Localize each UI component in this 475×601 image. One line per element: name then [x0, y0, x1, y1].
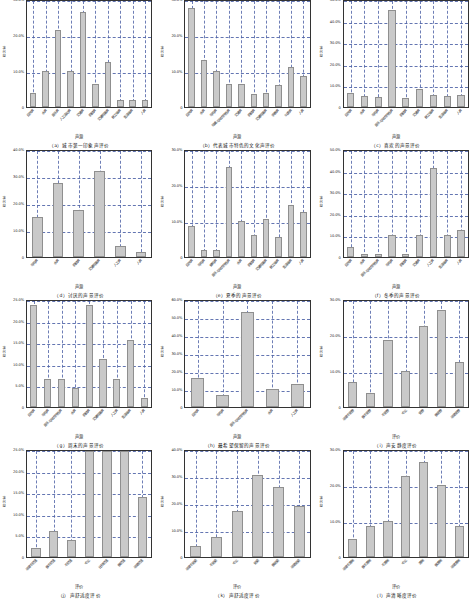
x-tick-label: 交通声: [75, 108, 85, 118]
bar-slot: [27, 451, 45, 557]
y-tick-label: 10.0%: [171, 220, 182, 224]
bar: [211, 537, 222, 557]
x-axis-label: 声源: [75, 283, 84, 289]
bar-series: [27, 451, 151, 557]
y-axis-ticks: 010.0%20.0%30.0%40.0%50.0%: [324, 0, 343, 108]
x-tick-label: 清晰: [417, 558, 425, 566]
bar: [67, 540, 76, 557]
x-tick-label: 不协调: [208, 558, 218, 568]
x-tick-label: 人工声: [108, 408, 118, 418]
bar-slot: [272, 1, 284, 107]
panel-caption: （h）最希望保留的声景评价: [205, 442, 271, 448]
x-tick-label: 水声: [198, 108, 206, 116]
bar-slot: [89, 1, 101, 107]
y-axis-ticks: 010.0%20.0%30.0%40.0%50.0%: [324, 150, 343, 258]
x-axis-label: 声源: [233, 433, 242, 439]
panel-caption: （c）喜欢的声景评价: [371, 142, 421, 148]
bar: [457, 95, 464, 107]
x-axis-label: 声源: [392, 283, 401, 289]
x-tick-label: 自然声: [342, 258, 352, 268]
x-axis-label: 声源: [75, 433, 84, 439]
x-axis-label: 声源: [233, 283, 242, 289]
bar-slot: [210, 151, 222, 257]
bar: [251, 235, 257, 257]
bar: [94, 171, 105, 257]
chart-panel-c: 百分率010.0%20.0%30.0%40.0%50.0%自然声水声鸟鸣声音乐与…: [317, 0, 475, 150]
bar: [388, 235, 395, 257]
bar-slot: [127, 1, 139, 107]
x-axis-ticks: 自然声鸟鸣声蝉鸣声音乐与地方特色声水声机械声交通鸣笛声施工噪声生活噪声人声: [158, 258, 316, 282]
x-tick-label: 人工声: [425, 258, 435, 268]
panel-caption: （g）周末的声景评价: [54, 442, 104, 448]
bar-slot: [63, 451, 81, 557]
bar: [115, 246, 126, 257]
x-tick-label: 交通声: [233, 108, 243, 118]
bar-series: [344, 451, 468, 557]
y-tick-label: 20.0%: [330, 334, 341, 338]
bar: [275, 237, 281, 257]
x-tick-label: 非常不舒适: [24, 558, 38, 572]
bar-slot: [82, 301, 96, 407]
y-tick-label: 40.0%: [13, 148, 24, 152]
y-tick-label: 10.0%: [13, 70, 24, 74]
bar: [361, 96, 368, 107]
bar: [375, 254, 382, 257]
x-tick-label: 非常安静: [449, 408, 461, 420]
bar: [141, 398, 148, 407]
y-tick-label: 30.0%: [171, 352, 182, 356]
bar: [402, 98, 409, 107]
bar-slot: [289, 451, 310, 557]
x-tick-label: 交通鸣笛声: [91, 408, 105, 422]
bar: [226, 84, 232, 107]
panel-caption: （a）城市第一印象声评价: [49, 142, 109, 148]
y-axis-ticks: 010.0%20.0%30.0%: [165, 150, 184, 258]
bar: [58, 379, 65, 407]
x-tick-label: 生活噪声: [120, 408, 132, 420]
x-axis-label: 声源: [75, 133, 84, 139]
x-axis-ticks: 非常不安静很不安静不安静中立安静很安静非常安静: [317, 408, 475, 432]
bar-slot: [131, 151, 152, 257]
bar-slot: [27, 301, 41, 407]
bar-slot: [344, 301, 362, 407]
bar: [416, 89, 423, 107]
chart-panel-b: 百分率010.0%20.0%30.0%自然声水声鸟鸣声戏曲与地方特色声交通声机械…: [158, 0, 316, 150]
panel-caption: （d）讨厌的声景评价: [54, 292, 104, 298]
x-axis-label: 评价: [233, 583, 242, 589]
bar: [201, 60, 207, 107]
axes-box: [343, 0, 469, 108]
axes-box: [184, 450, 310, 558]
y-tick-label: 60.0%: [171, 298, 182, 302]
bar-slot: [235, 151, 247, 257]
bar-slot: [198, 151, 210, 257]
bar: [430, 168, 437, 257]
plot-area-d: 百分率010.0%20.0%30.0%40.0%: [0, 150, 158, 258]
y-tick-label: 20.0%: [171, 370, 182, 374]
axes-box: [26, 450, 152, 558]
chart-panel-d: 百分率010.0%20.0%30.0%40.0%鸟鸣声水声机械声交通鸣笛声人工声…: [0, 150, 158, 300]
bar-slot: [397, 301, 415, 407]
bar: [455, 362, 464, 407]
bar-series: [344, 1, 468, 107]
bar: [55, 30, 61, 107]
bar: [300, 212, 306, 257]
plot-area-g: 百分率05.0%10.0%15.0%20.0%25.0%: [0, 300, 158, 408]
y-tick-label: 30.0%: [330, 191, 341, 195]
y-axis-label: 百分率: [317, 300, 324, 408]
y-tick-label: 10.0%: [171, 529, 182, 533]
bar: [383, 340, 392, 407]
bar: [213, 250, 219, 257]
y-tick-label: 40.0%: [330, 20, 341, 24]
bar-slot: [272, 151, 284, 257]
bar: [53, 183, 64, 257]
chart-panel-a: 百分率010.0%20.0%30.0%自然声水声音乐声人工活动声交通声机械声交通…: [0, 0, 158, 150]
bar-slot: [80, 451, 98, 557]
y-tick-label: 15.0%: [13, 341, 24, 345]
x-tick-label: 交通鸣笛声: [95, 108, 109, 122]
x-tick-label: 鸟鸣声: [370, 108, 380, 118]
y-axis-label: 百分率: [317, 0, 324, 108]
y-tick-label: 15.0%: [13, 491, 24, 495]
bar-slot: [357, 151, 371, 257]
chart-panel-j: 百分率05.0%10.0%15.0%20.0%25.0%非常不舒适很不舒适不舒适…: [0, 450, 158, 600]
x-tick-label: 生活噪声: [437, 108, 449, 120]
bar: [437, 485, 446, 557]
